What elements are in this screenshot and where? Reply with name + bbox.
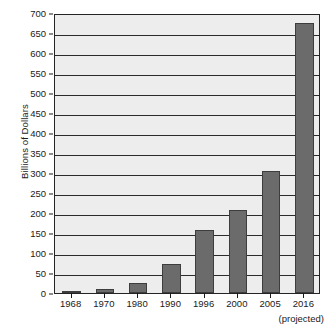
y-tick-label: 650 bbox=[0, 29, 46, 39]
bar bbox=[295, 23, 314, 293]
y-tick-mark bbox=[49, 234, 53, 235]
y-tick-label: 50 bbox=[0, 269, 46, 279]
y-tick-label: 0 bbox=[0, 289, 46, 299]
y-tick-mark bbox=[49, 214, 53, 215]
y-axis-tick-labels: 0501001502002503003504004505005506006507… bbox=[0, 0, 46, 333]
x-tick-label: 2000 bbox=[220, 298, 253, 309]
y-tick-mark bbox=[49, 34, 53, 35]
bar bbox=[129, 283, 148, 293]
y-tick-mark bbox=[49, 294, 53, 295]
plot-area bbox=[54, 14, 320, 294]
y-tick-mark bbox=[49, 114, 53, 115]
y-tick-mark bbox=[49, 94, 53, 95]
y-tick-mark bbox=[49, 74, 53, 75]
y-tick-mark bbox=[49, 274, 53, 275]
y-tick-mark bbox=[49, 174, 53, 175]
y-tick-mark bbox=[49, 54, 53, 55]
x-tick-label: 1970 bbox=[87, 298, 120, 309]
y-tick-label: 600 bbox=[0, 49, 46, 59]
x-tick-label: 2005 bbox=[254, 298, 287, 309]
x-tick-label: 1990 bbox=[154, 298, 187, 309]
x-tick-label: 1980 bbox=[121, 298, 154, 309]
y-tick-label: 150 bbox=[0, 229, 46, 239]
y-tick-label: 100 bbox=[0, 249, 46, 259]
bars-layer bbox=[55, 15, 319, 293]
y-tick-label: 300 bbox=[0, 169, 46, 179]
y-tick-mark bbox=[49, 134, 53, 135]
y-tick-label: 700 bbox=[0, 9, 46, 19]
bar bbox=[162, 264, 181, 293]
x-tick-label: 2016 bbox=[287, 298, 320, 309]
y-tick-label: 500 bbox=[0, 89, 46, 99]
y-tick-mark bbox=[49, 254, 53, 255]
y-tick-label: 200 bbox=[0, 209, 46, 219]
y-tick-label: 250 bbox=[0, 189, 46, 199]
x-axis-tick-labels: 19681970198019901996200020052016 bbox=[54, 298, 320, 314]
y-tick-label: 450 bbox=[0, 109, 46, 119]
projected-annotation: (projected) bbox=[279, 313, 324, 324]
y-tick-label: 400 bbox=[0, 129, 46, 139]
x-tick-label: 1968 bbox=[54, 298, 87, 309]
y-tick-mark bbox=[49, 14, 53, 15]
y-tick-mark bbox=[49, 154, 53, 155]
bar bbox=[262, 171, 281, 293]
y-tick-label: 550 bbox=[0, 69, 46, 79]
bar bbox=[195, 230, 214, 293]
x-tick-label: 1996 bbox=[187, 298, 220, 309]
bar bbox=[229, 210, 248, 293]
bar-chart: Billions of Dollars 05010015020025030035… bbox=[0, 0, 336, 333]
y-tick-label: 350 bbox=[0, 149, 46, 159]
y-tick-mark bbox=[49, 194, 53, 195]
